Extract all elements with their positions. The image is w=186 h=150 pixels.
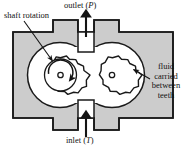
label-inlet-word: inlet — [66, 135, 81, 145]
left-gear-bore — [58, 72, 63, 77]
label-inlet-paren-close: ) — [91, 135, 94, 145]
label-fluid-line-4: teeth — [148, 91, 184, 101]
label-outlet: outlet (P) — [64, 1, 96, 11]
right-gear-bore — [109, 72, 114, 77]
label-inlet: inlet (T) — [66, 136, 94, 146]
label-fluid-carried-between-teeth: fluid carried between teeth — [148, 62, 184, 100]
label-outlet-word: outlet — [64, 0, 83, 10]
label-outlet-paren-close: ) — [94, 0, 97, 10]
gear-pump-diagram: shaft rotation outlet (P) inlet (T) flui… — [0, 0, 186, 150]
label-shaft-rotation: shaft rotation — [4, 11, 49, 21]
